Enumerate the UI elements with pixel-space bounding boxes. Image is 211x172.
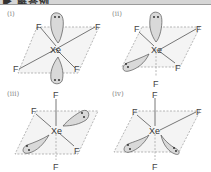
atom-f: F [134, 24, 140, 34]
atom-f: F [36, 22, 42, 32]
atom-f: F [53, 162, 59, 172]
atom-f: F [152, 90, 158, 100]
atom-f: F [175, 63, 181, 73]
atom-f: F [31, 106, 37, 116]
xef4-diagram-iii: F F F F Xe [0, 88, 105, 172]
atom-xe: Xe [151, 45, 162, 55]
xef4-diagram-ii: F F F F Xe [105, 5, 211, 89]
atom-xe: Xe [50, 45, 61, 55]
atom-f: F [74, 146, 80, 156]
diagram-panel-ii: (ii) F F F F Xe [105, 5, 210, 89]
xef4-diagram-iv: F F F F Xe [105, 88, 211, 172]
diagram-panel-i: (i) F F F F Xe [0, 5, 105, 89]
atom-f: F [95, 22, 101, 32]
atom-xe: Xe [51, 126, 62, 136]
atom-f: F [196, 24, 202, 34]
diagram-panel-iii: (iii) F F F F Xe [0, 88, 105, 172]
atom-f: F [13, 64, 19, 74]
atom-f: F [196, 107, 202, 117]
atom-xe: Xe [149, 126, 160, 136]
atom-f: F [53, 90, 59, 100]
atom-f: F [152, 162, 158, 172]
atom-f: F [74, 64, 80, 74]
diagram-panel-iv: (iv) F F F F Xe [105, 88, 210, 172]
atom-f: F [132, 107, 138, 117]
xef4-diagram-i: F F F F Xe [0, 5, 105, 89]
